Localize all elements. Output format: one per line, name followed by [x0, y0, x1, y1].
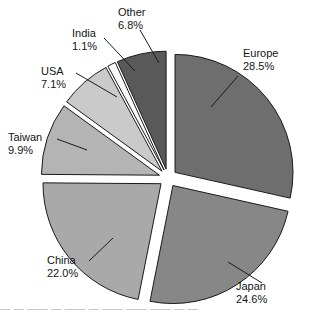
pie-label-value-taiwan: 9.9%	[8, 144, 42, 157]
pie-slices-group	[41, 51, 293, 303]
pie-label-name-europe: Europe	[243, 47, 278, 60]
pie-chart-figure: Europe28.5%Japan24.6%China22.0%Taiwan9.9…	[0, 0, 320, 319]
pie-label-value-india: 1.1%	[72, 40, 97, 53]
cut-off-caption-text: — — —— — —— — —— —— —— — —	[0, 308, 320, 314]
pie-label-name-taiwan: Taiwan	[8, 131, 42, 144]
pie-label-other: Other6.8%	[118, 6, 146, 31]
pie-slice-japan[interactable]	[150, 186, 288, 304]
pie-label-usa: USA7.1%	[41, 65, 66, 90]
pie-label-japan: Japan24.6%	[236, 280, 267, 305]
pie-label-name-japan: Japan	[236, 280, 267, 293]
pie-label-value-other: 6.8%	[118, 19, 146, 32]
pie-label-name-usa: USA	[41, 65, 66, 78]
pie-label-name-other: Other	[118, 6, 146, 19]
pie-label-value-usa: 7.1%	[41, 78, 66, 91]
pie-label-europe: Europe28.5%	[243, 47, 278, 72]
cut-off-caption: — — —— — —— — —— —— —— — —	[0, 308, 320, 319]
pie-label-india: India1.1%	[72, 27, 97, 52]
pie-label-name-india: India	[72, 27, 97, 40]
pie-slice-china[interactable]	[43, 183, 161, 300]
pie-label-china: China22.0%	[47, 254, 78, 279]
pie-label-taiwan: Taiwan9.9%	[8, 131, 42, 156]
pie-label-value-europe: 28.5%	[243, 60, 278, 73]
pie-label-name-china: China	[47, 254, 78, 267]
pie-slice-europe[interactable]	[175, 54, 293, 198]
pie-label-value-japan: 24.6%	[236, 293, 267, 306]
pie-label-value-china: 22.0%	[47, 267, 78, 280]
